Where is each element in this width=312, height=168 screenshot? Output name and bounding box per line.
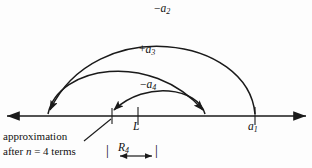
label-limit-L: L <box>133 120 139 132</box>
label-remainder-R4: R4 <box>118 141 129 155</box>
label-first-term-a1: a1 <box>248 120 258 134</box>
label-term-a3: +a3 <box>139 43 155 57</box>
label-first-term-a1-subscript: 1 <box>254 125 258 134</box>
annotation-line-2-prefix: after <box>3 145 26 157</box>
annotation-line-1: approximation <box>3 131 67 143</box>
figure-canvas: −a2 +a3 −a4 L a1 approximation after n =… <box>0 0 312 168</box>
annotation-line-2: after n = 4 terms <box>3 146 76 158</box>
label-remainder-R4-base: R <box>118 141 125 153</box>
label-remainder-R4-subscript: 4 <box>125 146 129 155</box>
label-term-a4: −a4 <box>140 78 156 92</box>
label-term-a3-subscript: 3 <box>151 48 155 57</box>
annotation-leader-line <box>84 119 111 141</box>
arc-minus-a4 <box>114 91 205 114</box>
label-term-a2-subscript: 2 <box>166 7 170 16</box>
remainder-bracket-right: | <box>155 144 158 159</box>
annotation-line-2-suffix: = 4 terms <box>31 145 75 157</box>
label-term-a4-subscript: 4 <box>152 83 156 92</box>
remainder-bracket-left: | <box>106 144 109 159</box>
label-term-a2: −a2 <box>154 2 170 16</box>
